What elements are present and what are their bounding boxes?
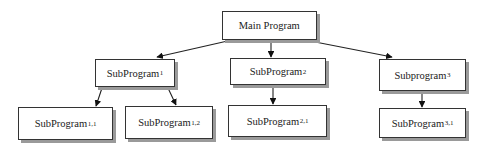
- edge-arrow-sp1-to-sp11: [96, 88, 102, 106]
- node-subprogram-3: Subprogram3: [379, 59, 466, 91]
- node-label: SubProgram: [107, 68, 160, 79]
- edge-arrow-main-to-sp3: [305, 40, 392, 57]
- edge-arrow-sp1-to-sp12: [168, 88, 176, 105]
- node-subscript: 1,1: [88, 120, 97, 128]
- node-subscript: 3: [447, 71, 451, 79]
- node-subprogram-2-1: SubProgram2,1: [228, 105, 327, 137]
- node-subscript: 3,1: [445, 119, 454, 127]
- node-subprogram-2: SubProgram2: [230, 58, 326, 85]
- node-subscript: 2: [303, 68, 307, 76]
- node-subscript: 1,2: [191, 119, 200, 127]
- node-subscript: 1: [160, 69, 164, 77]
- node-label: SubProgram: [138, 117, 191, 128]
- node-label: Subprogram: [395, 70, 447, 81]
- node-label: SubProgram: [392, 118, 445, 129]
- edge-arrow-main-to-sp1: [157, 40, 232, 57]
- hierarchy-diagram: Main Program SubProgram1 SubProgram2 Sub…: [0, 0, 491, 150]
- node-subscript: 2,1: [300, 117, 309, 125]
- node-label: SubProgram: [250, 66, 303, 77]
- node-subprogram-1-1: SubProgram1,1: [18, 107, 113, 140]
- node-subprogram-1: SubProgram1: [95, 59, 175, 87]
- node-subprogram-1-2: SubProgram1,2: [125, 106, 213, 139]
- node-label: SubProgram: [35, 118, 88, 129]
- node-label: Main Program: [239, 20, 300, 31]
- node-label: SubProgram: [247, 116, 300, 127]
- node-main-program: Main Program: [222, 11, 317, 40]
- node-subprogram-3-1: SubProgram3,1: [379, 108, 466, 138]
